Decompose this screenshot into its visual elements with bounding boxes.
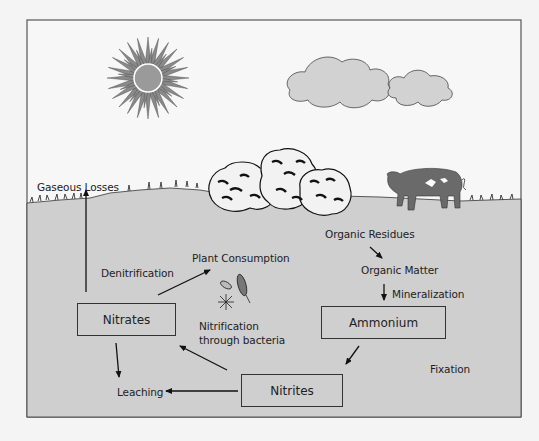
label-nitrification-line2: through bacteria (199, 334, 285, 346)
box-nitrites: Nitrites (241, 374, 343, 407)
label-plant-consumption: Plant Consumption (192, 252, 290, 264)
label-leaching: Leaching (117, 386, 163, 398)
label-nitrification-line1: Nitrification (199, 320, 259, 332)
label-gaseous-losses: Gaseous Losses (37, 181, 119, 193)
label-mineralization: Mineralization (392, 288, 464, 300)
box-nitrates: Nitrates (77, 303, 176, 336)
sun-icon (107, 37, 189, 119)
label-organic-matter: Organic Matter (361, 264, 438, 276)
label-denitrification: Denitrification (101, 267, 174, 279)
label-fixation: Fixation (430, 363, 470, 375)
box-ammonium: Ammonium (321, 306, 446, 339)
label-organic-residues: Organic Residues (325, 228, 415, 240)
nitrogen-cycle-diagram: Gaseous Losses Denitrification Plant Con… (0, 0, 539, 441)
